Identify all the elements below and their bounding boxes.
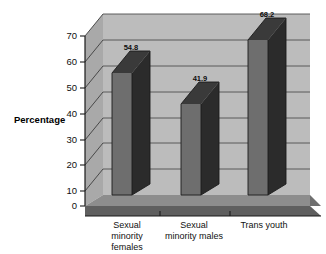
y-axis-title: Percentage: [14, 114, 65, 125]
chart-canvas: 70 60 50 40 30 20 10 0 Percentage 54.8: [0, 0, 326, 254]
bar-1-value-label: 54.8: [124, 43, 139, 52]
y-tick-label-50: 50: [66, 82, 77, 93]
y-axis: 70 60 50 40 30 20 10 0: [66, 30, 85, 211]
y-tick-label-0: 0: [72, 200, 77, 211]
category-label-2-line2: minority males: [165, 231, 224, 241]
category-label-1-line3: females: [111, 242, 143, 252]
y-tick-label-60: 60: [66, 56, 77, 67]
bar-1-side: [132, 51, 150, 195]
category-label-2-line1: Sexual: [180, 220, 208, 230]
y-tick-label-10: 10: [66, 185, 77, 196]
bar-3-side: [268, 18, 286, 195]
y-tick-label-40: 40: [66, 108, 77, 119]
category-label-1-line2: minority: [111, 231, 143, 241]
category-labels: Sexual minority females Sexual minority …: [111, 220, 287, 252]
bar-2-value-label: 41.9: [193, 74, 208, 83]
category-label-1-line1: Sexual: [113, 220, 141, 230]
bar-group-3: 68.2: [248, 10, 286, 195]
bar-group-1: 54.8: [112, 43, 150, 195]
y-tick-label-20: 20: [66, 159, 77, 170]
category-label-3-line1: Trans youth: [240, 220, 287, 230]
floor-surface: [85, 195, 310, 206]
bar-3-value-label: 68.2: [260, 10, 275, 19]
y-tick-label-70: 70: [66, 30, 77, 41]
bar-2-front: [181, 104, 201, 195]
floor-front-band: [85, 206, 321, 216]
floor-right-wedge: [310, 195, 321, 206]
bar-3-front: [248, 40, 268, 195]
bar-1-front: [112, 73, 132, 195]
bar-chart-figure: 70 60 50 40 30 20 10 0 Percentage 54.8: [0, 0, 326, 254]
y-tick-label-30: 30: [66, 134, 77, 145]
